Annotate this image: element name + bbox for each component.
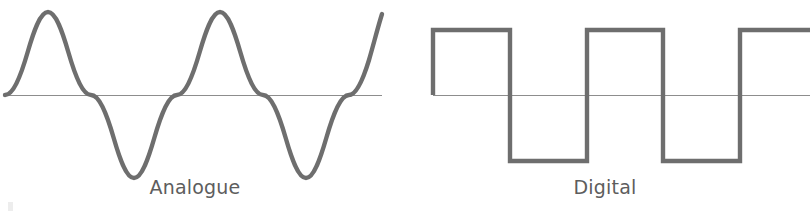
digital-caption-label: Digital	[405, 176, 805, 198]
signal-waveform-figure: Analogue Digital	[0, 0, 810, 215]
analogue-caption-label: Analogue	[0, 176, 390, 198]
scan-artifact-mark	[8, 202, 13, 211]
